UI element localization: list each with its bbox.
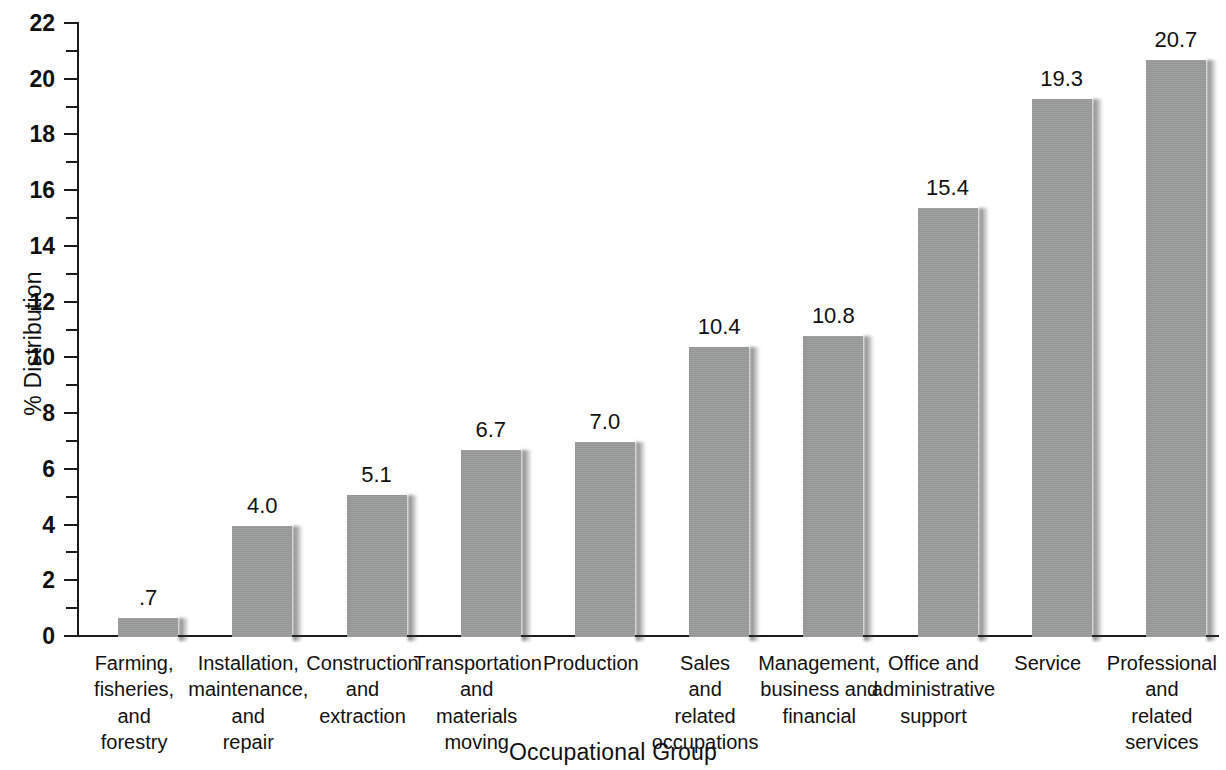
x-axis-category-line: fisheries, <box>94 678 174 700</box>
x-axis-category-line: Farming, <box>95 652 174 674</box>
x-axis-category-label: Production <box>528 650 654 676</box>
bar-value-label: 10.8 <box>812 303 855 329</box>
x-axis-category-line: maintenance, <box>188 678 308 700</box>
y-tick-minor <box>66 161 77 163</box>
bar-shadow <box>1093 99 1102 641</box>
bar <box>803 336 863 637</box>
bar-group: .7 <box>118 24 178 637</box>
x-axis-category-label: Constructionandextraction <box>299 650 425 729</box>
y-tick-label: 16 <box>29 177 55 204</box>
bar-value-label: 4.0 <box>247 493 278 519</box>
bar-group: 10.4 <box>689 24 749 637</box>
bar-value-label: 15.4 <box>926 175 969 201</box>
bar <box>918 208 978 637</box>
x-axis-category-line: and <box>117 705 150 727</box>
y-tick-major: 2 <box>64 579 77 581</box>
bar-group: 6.7 <box>461 24 521 637</box>
y-tick-label: 14 <box>29 232 55 259</box>
bar <box>461 450 521 637</box>
bar-group: 7.0 <box>575 24 635 637</box>
x-axis-category-line: materials <box>436 705 517 727</box>
bar-value-label: 6.7 <box>475 417 506 443</box>
bar-shadow <box>408 495 417 641</box>
y-tick-major: 4 <box>64 524 77 526</box>
bar-shadow <box>979 208 988 641</box>
bar-group: 4.0 <box>232 24 292 637</box>
x-axis-category-line: and <box>232 705 265 727</box>
x-axis-category-label: Office andadministrativesupport <box>870 650 996 729</box>
x-axis-category-line: Production <box>543 652 639 674</box>
y-tick-minor <box>66 607 77 609</box>
x-axis-category-line: financial <box>783 705 856 727</box>
bar-value-label: .7 <box>139 585 157 611</box>
bar-shadow <box>1207 60 1216 641</box>
x-axis-category-line: Construction <box>306 652 418 674</box>
y-axis-line <box>77 22 79 637</box>
y-tick-label: 6 <box>42 455 55 482</box>
bar-shadow <box>636 442 645 641</box>
bar-value-label: 5.1 <box>361 462 392 488</box>
x-axis-category-line: related <box>675 705 736 727</box>
bar-group: 5.1 <box>347 24 407 637</box>
y-tick-minor <box>66 551 77 553</box>
x-axis-category-line: related <box>1131 705 1192 727</box>
y-tick-minor <box>66 329 77 331</box>
bar-value-label: 19.3 <box>1040 66 1083 92</box>
x-axis-title: Occupational Group <box>0 739 1226 766</box>
x-axis-category-line: administrative <box>872 678 995 700</box>
x-axis-category-line: and <box>688 678 721 700</box>
y-tick-major: 10 <box>64 356 77 358</box>
y-tick-major: 14 <box>64 245 77 247</box>
y-tick-major: 12 <box>64 301 77 303</box>
bar <box>347 495 407 637</box>
y-tick-major: 8 <box>64 412 77 414</box>
bar-group: 20.7 <box>1146 24 1206 637</box>
x-axis-category-line: Sales <box>680 652 730 674</box>
x-axis-category-line: extraction <box>319 705 406 727</box>
x-axis-category-line: Transportation <box>414 652 542 674</box>
y-tick-minor <box>66 217 77 219</box>
bar-shadow <box>750 347 759 641</box>
bar-group: 19.3 <box>1032 24 1092 637</box>
x-axis-category-line: Management, <box>758 652 880 674</box>
x-axis-category-line: Office and <box>888 652 979 674</box>
y-tick-minor <box>66 50 77 52</box>
y-tick-label: 10 <box>29 344 55 371</box>
x-axis-category-line: and <box>1145 678 1178 700</box>
bar-value-label: 7.0 <box>590 409 621 435</box>
y-tick-major: 0 <box>64 635 77 637</box>
x-axis-category-line: Service <box>1014 652 1081 674</box>
bar-value-label: 20.7 <box>1154 27 1197 53</box>
x-axis-category-line: and <box>346 678 379 700</box>
y-tick-label: 22 <box>29 10 55 37</box>
y-tick-minor <box>66 496 77 498</box>
y-tick-major: 20 <box>64 78 77 80</box>
bar-group: 15.4 <box>918 24 978 637</box>
bar <box>1032 99 1092 637</box>
y-tick-minor <box>66 384 77 386</box>
y-tick-label: 4 <box>42 511 55 538</box>
x-axis-category-line: and <box>460 678 493 700</box>
y-tick-minor <box>66 273 77 275</box>
y-tick-minor <box>66 440 77 442</box>
y-tick-major: 18 <box>64 133 77 135</box>
bar <box>689 347 749 637</box>
x-axis-category-line: Professional <box>1107 652 1217 674</box>
plot-area: 0246810121416182022 .74.05.16.77.010.410… <box>77 22 1219 637</box>
bar <box>118 618 178 638</box>
y-tick-label: 8 <box>42 400 55 427</box>
bar <box>1146 60 1206 637</box>
y-tick-major: 6 <box>64 468 77 470</box>
y-tick-label: 12 <box>29 288 55 315</box>
bar-shadow <box>522 450 531 641</box>
x-axis-category-line: support <box>900 705 967 727</box>
y-tick-label: 20 <box>29 65 55 92</box>
bar <box>575 442 635 637</box>
y-tick-label: 0 <box>42 623 55 650</box>
y-tick-minor <box>66 106 77 108</box>
y-tick-label: 2 <box>42 567 55 594</box>
bar-value-label: 10.4 <box>698 314 741 340</box>
bar-shadow <box>293 526 302 641</box>
bar <box>232 526 292 637</box>
bar-shadow <box>179 618 188 642</box>
